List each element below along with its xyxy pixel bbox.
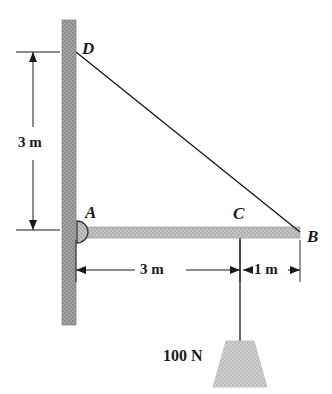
dimension-label-horizontal-1m: 1 m bbox=[254, 262, 278, 277]
hanging-weight-block bbox=[213, 341, 267, 387]
cable-DB bbox=[76, 52, 300, 232]
beam-member bbox=[76, 227, 300, 238]
point-label-D: D bbox=[82, 40, 94, 57]
pin-support-A bbox=[77, 221, 88, 243]
load-label-100n: 100 N bbox=[163, 348, 203, 364]
dimension-label-vertical-3m: 3 m bbox=[18, 135, 42, 150]
point-label-B: B bbox=[307, 228, 318, 245]
wall bbox=[62, 20, 76, 325]
point-label-A: A bbox=[85, 204, 96, 221]
point-label-C: C bbox=[233, 205, 244, 222]
dimension-label-horizontal-3m: 3 m bbox=[140, 262, 164, 277]
beam-diagram-figure: D A C B 3 m 3 m 1 m 100 N bbox=[0, 0, 332, 394]
diagram-canvas bbox=[0, 0, 332, 394]
